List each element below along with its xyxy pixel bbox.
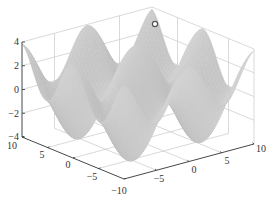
- surface-plot: 4 2 0 −2 −4 10 5 0 −5 −10 −5 0 5 10: [0, 0, 271, 202]
- z-tick-label: 2: [14, 60, 19, 71]
- z-axis-ticks: 4 2 0 −2 −4: [8, 36, 19, 142]
- peak-marker-icon: [152, 21, 157, 26]
- z-tick-label: −2: [8, 108, 19, 119]
- x-tick-label: −5: [87, 171, 98, 182]
- y-tick-label: 5: [225, 155, 230, 166]
- z-tick-label: 0: [14, 84, 19, 95]
- x-tick-label: 10: [7, 140, 17, 151]
- y-tick-label: −5: [154, 173, 165, 184]
- x-tick-label: 5: [40, 149, 45, 160]
- y-tick-label: 0: [192, 164, 197, 175]
- x-tick-label: −10: [111, 185, 127, 196]
- z-tick-label: 4: [14, 36, 19, 47]
- x-tick-label: 0: [66, 159, 71, 170]
- y-tick-label: 10: [256, 143, 266, 154]
- surface-mesh: [22, 9, 254, 161]
